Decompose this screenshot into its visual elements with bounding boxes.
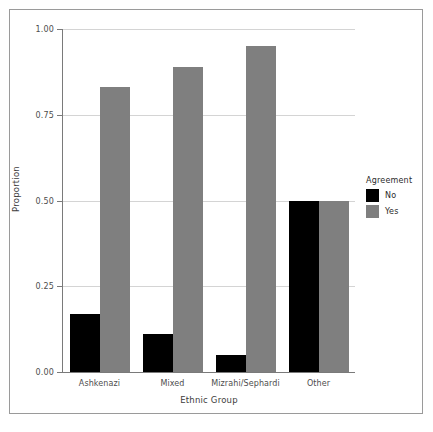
- bar-other-yes: [319, 201, 349, 373]
- legend-label-no: No: [385, 191, 396, 200]
- x-axis-title: Ethnic Group: [63, 395, 355, 405]
- y-axis-title: Proportion: [11, 159, 21, 219]
- y-axis-line: [62, 29, 63, 373]
- y-tick-mark: [57, 115, 62, 116]
- legend-item-yes[interactable]: Yes: [366, 205, 426, 218]
- legend-title: Agreement: [366, 176, 426, 185]
- legend-label-yes: Yes: [385, 207, 399, 216]
- legend-entries: NoYes: [366, 189, 426, 218]
- x-tick-label-mixed: Mixed: [160, 379, 184, 388]
- bar-mixed-no: [143, 334, 173, 372]
- bar-mixed-yes: [173, 67, 203, 372]
- y-tick-mark: [57, 201, 62, 202]
- bars-layer: [63, 29, 355, 372]
- y-tick-label-0.75: 0.75: [14, 110, 54, 119]
- y-tick-mark: [57, 29, 62, 30]
- legend-item-no[interactable]: No: [366, 189, 426, 202]
- plot-area: [63, 29, 355, 372]
- bar-mizrahi-sephardi-yes: [246, 46, 276, 372]
- legend-swatch-no-icon: [366, 189, 379, 202]
- legend-swatch-yes-icon: [366, 205, 379, 218]
- x-axis-line: [63, 372, 355, 373]
- y-tick-label-0.00: 0.00: [14, 368, 54, 377]
- chart-figure: 0.000.250.500.751.00 AshkenaziMixedMizra…: [0, 0, 433, 432]
- x-tick-label-mizrahi-sephardi: Mizrahi/Sephardi: [211, 379, 280, 388]
- legend: Agreement NoYes: [366, 176, 426, 221]
- x-tick-label-other: Other: [307, 379, 330, 388]
- x-tick-label-ashkenazi: Ashkenazi: [79, 379, 120, 388]
- bar-mizrahi-sephardi-no: [216, 355, 246, 372]
- bar-ashkenazi-no: [70, 314, 100, 372]
- y-tick-mark: [57, 372, 62, 373]
- bar-ashkenazi-yes: [100, 87, 130, 372]
- y-tick-label-1.00: 1.00: [14, 25, 54, 34]
- y-tick-label-0.25: 0.25: [14, 282, 54, 291]
- bar-other-no: [289, 201, 319, 373]
- y-tick-mark: [57, 286, 62, 287]
